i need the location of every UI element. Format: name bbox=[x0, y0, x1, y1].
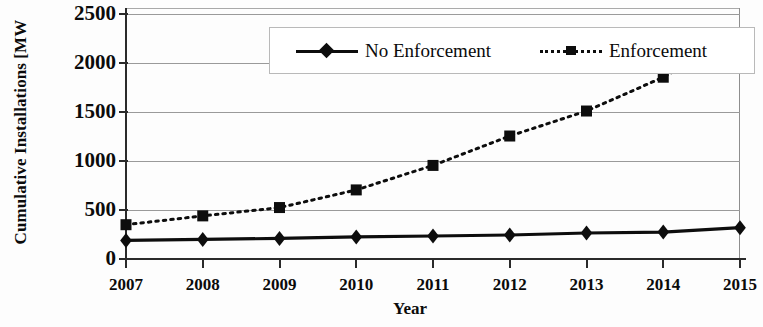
legend-label-enforcement: Enforcement bbox=[609, 40, 707, 62]
y-tick-label: 500 bbox=[85, 197, 117, 222]
data-point-marker bbox=[504, 227, 516, 242]
y-tick-label: 0 bbox=[106, 246, 117, 271]
x-tick bbox=[432, 259, 434, 268]
y-tick-label: 1500 bbox=[74, 99, 116, 124]
x-tick bbox=[202, 259, 204, 268]
data-point-marker bbox=[121, 219, 132, 230]
x-tick bbox=[662, 259, 664, 268]
x-axis-title: Year bbox=[330, 299, 490, 319]
data-point-marker bbox=[657, 225, 669, 240]
plot-area: 05001000150020002500 2007200820092010201… bbox=[126, 14, 740, 259]
data-point-marker bbox=[197, 210, 208, 221]
chart-figure: Cumulative Installations [MW Year 050010… bbox=[0, 0, 763, 327]
square-marker-icon bbox=[566, 46, 576, 55]
plot-top-edge bbox=[126, 8, 740, 9]
y-axis-title: Cumulative Installations [MW bbox=[11, 7, 31, 257]
x-tick bbox=[739, 259, 741, 268]
diamond-marker-icon bbox=[319, 42, 335, 58]
data-point-marker bbox=[274, 202, 285, 213]
legend-swatch-enforcement bbox=[540, 44, 602, 58]
x-tick-label: 2008 bbox=[186, 275, 220, 295]
x-tick-label: 2014 bbox=[646, 275, 680, 295]
legend-label-no-enforcement: No Enforcement bbox=[365, 40, 491, 62]
chart-legend: No Enforcement Enforcement bbox=[269, 27, 755, 74]
x-tick bbox=[355, 259, 357, 268]
data-point-marker bbox=[274, 231, 286, 246]
x-tick-label: 2011 bbox=[416, 275, 449, 295]
x-tick-label: 2012 bbox=[493, 275, 527, 295]
data-point-marker bbox=[351, 184, 362, 195]
x-tick bbox=[586, 259, 588, 268]
y-tick-label: 1000 bbox=[74, 148, 116, 173]
data-point-marker bbox=[428, 160, 439, 171]
data-point-marker bbox=[120, 233, 132, 248]
x-tick-label: 2009 bbox=[263, 275, 297, 295]
legend-item-enforcement: Enforcement bbox=[540, 40, 707, 62]
data-point-marker bbox=[581, 106, 592, 117]
x-tick-label: 2007 bbox=[109, 275, 143, 295]
x-tick-label: 2015 bbox=[723, 275, 757, 295]
legend-swatch-no-enforcement bbox=[296, 44, 358, 58]
x-tick bbox=[509, 259, 511, 268]
y-tick-label: 2500 bbox=[74, 1, 116, 26]
data-point-marker bbox=[581, 226, 593, 241]
x-tick-label: 2010 bbox=[339, 275, 373, 295]
x-tick-label: 2013 bbox=[570, 275, 604, 295]
legend-item-no-enforcement: No Enforcement bbox=[296, 40, 491, 62]
data-point-marker bbox=[504, 131, 515, 142]
data-point-marker bbox=[350, 229, 362, 244]
data-point-marker bbox=[197, 232, 209, 247]
data-point-marker bbox=[734, 220, 746, 235]
x-tick bbox=[279, 259, 281, 268]
data-point-marker bbox=[427, 228, 439, 243]
y-tick-label: 2000 bbox=[74, 50, 116, 75]
